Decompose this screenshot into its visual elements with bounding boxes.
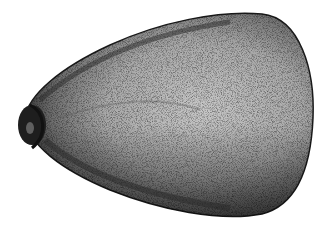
illustration: [0, 0, 330, 227]
seed-illustration: [0, 0, 330, 227]
seed-body: [0, 0, 330, 227]
tip-highlight: [26, 122, 34, 134]
